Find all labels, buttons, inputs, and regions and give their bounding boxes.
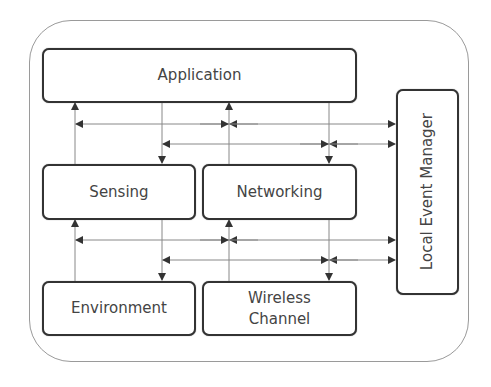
node-label: Networking: [237, 182, 323, 203]
node-label-line2: Channel: [249, 309, 311, 330]
node-label: Environment: [71, 298, 167, 319]
node-label: Local Event Manager: [417, 113, 438, 270]
node-sensing: Sensing: [42, 164, 196, 220]
node-application: Application: [42, 48, 357, 103]
node-environment: Environment: [42, 281, 196, 336]
node-wireless-channel: Wireless Channel: [202, 281, 357, 336]
node-networking: Networking: [202, 164, 357, 220]
node-label: Sensing: [89, 182, 148, 203]
node-local-event-manager: Local Event Manager: [396, 89, 459, 295]
node-label: Application: [158, 65, 242, 86]
node-label-line1: Wireless: [248, 288, 311, 309]
